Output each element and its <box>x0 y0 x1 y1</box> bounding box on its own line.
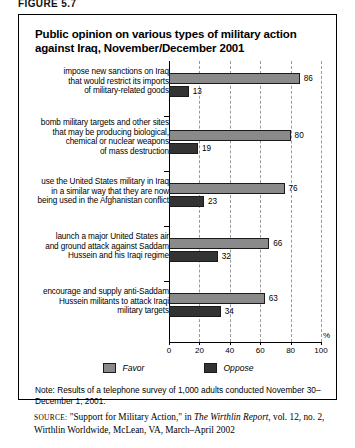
x-tick-label: 40 <box>225 346 234 355</box>
legend-label: Oppose <box>223 363 253 373</box>
bar-row: 66 <box>169 238 321 249</box>
bar-value-label: 66 <box>273 239 282 248</box>
bar-favor[interactable] <box>169 73 300 84</box>
bar-oppose[interactable] <box>169 86 189 97</box>
bar-row: 80 <box>169 130 321 141</box>
bars-container: 8613 <box>169 73 321 99</box>
figure-source: SOURCE: "Support for Military Action," i… <box>34 411 339 436</box>
bars-container: 6632 <box>169 238 321 264</box>
x-tick <box>199 342 200 345</box>
bar-row: 23 <box>169 196 321 207</box>
bar-value-label: 63 <box>269 294 278 303</box>
bar-oppose[interactable] <box>169 143 198 154</box>
x-tick-label: 100 <box>314 346 327 355</box>
bar-row: 19 <box>169 143 321 154</box>
category-separator-tick <box>164 116 169 117</box>
bar-groups: impose new sanctions on Iraq that would … <box>19 61 338 336</box>
bar-favor[interactable] <box>169 130 291 141</box>
legend-label: Favor <box>122 363 144 373</box>
value-axis-line <box>169 342 321 343</box>
source-pre: "Support for Military Action," in <box>67 412 194 422</box>
bar-favor[interactable] <box>169 183 285 194</box>
bars-container: 8019 <box>169 130 321 156</box>
source-publication: The Wirthlin Report <box>194 412 268 422</box>
legend-item-favor[interactable]: Favor <box>103 363 144 373</box>
x-tick-label: 60 <box>256 346 265 355</box>
category-separator-tick <box>164 226 169 227</box>
category-label: encourage and supply anti-Saddam Hussein… <box>34 287 169 316</box>
bar-row: 63 <box>169 293 321 304</box>
bar-value-label: 34 <box>225 307 234 316</box>
category-label: impose new sanctions on Iraq that would … <box>34 67 169 96</box>
legend-swatch-oppose <box>204 363 217 373</box>
x-tick <box>291 342 292 345</box>
x-tick <box>169 342 170 345</box>
bar-row: 86 <box>169 73 321 84</box>
category-label: bomb military targets and other sites th… <box>34 118 169 156</box>
percent-axis-label: % <box>323 331 330 340</box>
chart-title: Public opinion on various types of milit… <box>35 27 325 55</box>
chart-plot-area: impose new sanctions on Iraq that would … <box>19 61 338 356</box>
x-tick-label: 0 <box>167 346 171 355</box>
figure-label: FIGURE 5.7 <box>18 0 76 9</box>
bar-oppose[interactable] <box>169 306 221 317</box>
bar-value-label: 80 <box>295 131 304 140</box>
bar-favor[interactable] <box>169 238 269 249</box>
bar-oppose[interactable] <box>169 196 204 207</box>
figure-note: Note: Results of a telephone survey of 1… <box>35 385 323 406</box>
x-tick <box>260 342 261 345</box>
source-label: SOURCE: <box>34 413 67 422</box>
bar-value-label: 23 <box>208 197 217 206</box>
figure-box: Public opinion on various types of milit… <box>18 14 337 400</box>
category-label: use the United States military in Iraq i… <box>34 177 169 206</box>
bar-value-label: 86 <box>304 74 313 83</box>
x-tick <box>230 342 231 345</box>
category-separator-tick <box>164 171 169 172</box>
legend-swatch-favor <box>103 363 116 373</box>
bar-value-label: 76 <box>289 184 298 193</box>
bar-value-label: 32 <box>222 252 231 261</box>
bar-row: 76 <box>169 183 321 194</box>
category-label: launch a major United States air and gro… <box>34 232 169 261</box>
bar-group: encourage and supply anti-Saddam Hussein… <box>19 281 338 336</box>
bar-row: 32 <box>169 251 321 262</box>
category-separator-tick <box>164 281 169 282</box>
bar-row: 13 <box>169 86 321 97</box>
bar-group: impose new sanctions on Iraq that would … <box>19 61 338 116</box>
bar-row: 34 <box>169 306 321 317</box>
bar-group: launch a major United States air and gro… <box>19 226 338 281</box>
legend-item-oppose[interactable]: Oppose <box>204 363 253 373</box>
chart-legend: FavorOppose <box>19 363 338 373</box>
x-tick-label: 80 <box>286 346 295 355</box>
x-tick-label: 20 <box>195 346 204 355</box>
bar-value-label: 19 <box>202 144 211 153</box>
bar-value-label: 13 <box>193 87 202 96</box>
bar-group: bomb military targets and other sites th… <box>19 116 338 171</box>
x-tick <box>321 342 322 345</box>
bar-favor[interactable] <box>169 293 265 304</box>
bars-container: 7623 <box>169 183 321 209</box>
bar-group: use the United States military in Iraq i… <box>19 171 338 226</box>
bars-container: 6334 <box>169 293 321 319</box>
bar-oppose[interactable] <box>169 251 218 262</box>
